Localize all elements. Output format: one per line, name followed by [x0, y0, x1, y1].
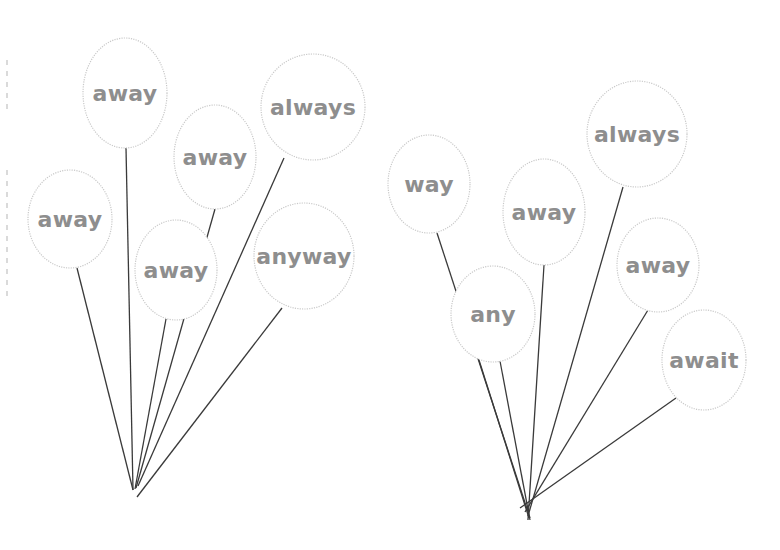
balloon-word: away [38, 207, 103, 232]
balloon-away: away [174, 105, 256, 209]
balloon-word: away [144, 258, 209, 283]
balloon-word: always [270, 95, 356, 120]
balloon-way: way [388, 135, 470, 233]
balloon-string [520, 398, 676, 508]
left-bunch: awayalwaysawayawayawayanyway [28, 38, 365, 320]
balloon-always: always [261, 54, 365, 160]
balloon-string [126, 148, 133, 490]
balloon-string [77, 268, 133, 490]
balloons: awayalwaysawayawayawayanywaywayawayalway… [28, 38, 746, 410]
balloon-away: away [28, 170, 112, 268]
balloon-word-worksheet: awayalwaysawayawayawayanywaywayawayalway… [0, 0, 780, 550]
balloon-word: await [669, 348, 739, 373]
balloon-any: any [451, 266, 535, 362]
balloon-word: any [470, 302, 516, 327]
balloon-illustration: awayalwaysawayawayawayanywaywayawayalway… [0, 0, 780, 550]
balloon-away: away [503, 159, 585, 265]
balloon-away: away [83, 38, 167, 148]
balloon-word: away [183, 145, 248, 170]
balloon-word: away [626, 253, 691, 278]
balloon-word: anyway [256, 244, 351, 269]
balloon-word: way [404, 172, 454, 197]
balloon-away: away [617, 218, 699, 312]
balloon-strings [77, 148, 676, 520]
balloon-word: away [93, 81, 158, 106]
balloon-await: await [662, 310, 746, 410]
balloon-string [137, 308, 282, 497]
balloon-word: away [512, 200, 577, 225]
balloon-always: always [587, 81, 687, 187]
balloon-string [525, 310, 648, 512]
balloon-anyway: anyway [254, 203, 354, 309]
balloon-away: away [135, 220, 217, 320]
balloon-word: always [594, 122, 680, 147]
balloon-string [135, 319, 166, 489]
